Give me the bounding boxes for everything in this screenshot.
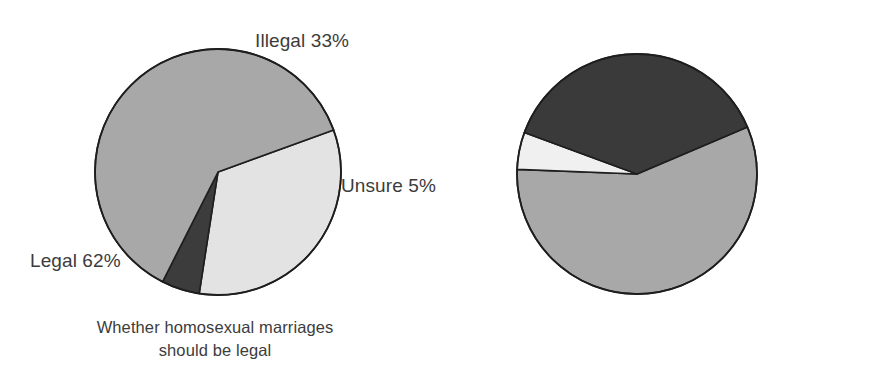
- chart-panel-business-refusal: Should Not 57% Unsure 5% Should 38% Whet…: [440, 0, 894, 367]
- pie-slice-label-unsure: Unsure 5%: [341, 175, 436, 197]
- caption-line-2: refuse services to gays and lesbians: [883, 339, 894, 362]
- chart-caption-marriage-legality: Whether homosexual marriages should be l…: [55, 316, 375, 362]
- caption-line-1: Whether businesses should be allowed to: [883, 316, 894, 339]
- pie-chart-business-refusal: [440, 0, 894, 310]
- pie-chart-figure: Illegal 33% Unsure 5% Legal 62% Whether …: [0, 0, 894, 367]
- pie-slice-label-illegal: Illegal 33%: [255, 30, 349, 52]
- caption-line-1: Whether homosexual marriages: [55, 316, 375, 339]
- chart-panel-marriage-legality: Illegal 33% Unsure 5% Legal 62% Whether …: [0, 0, 460, 367]
- caption-line-2: should be legal: [55, 339, 375, 362]
- chart-caption-business-refusal: Whether businesses should be allowed to …: [883, 316, 894, 362]
- pie-slice-label-legal: Legal 62%: [30, 250, 121, 272]
